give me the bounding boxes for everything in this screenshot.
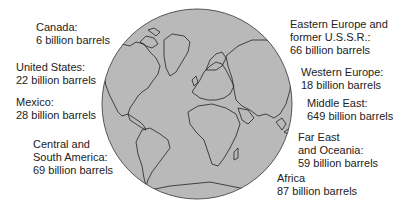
label-mexico: Mexico: 28 billion barrels [16, 96, 96, 122]
region-value: 18 billion barrels [301, 79, 383, 92]
region-value: 66 billion barrels [290, 44, 388, 57]
label-africa: Africa 87 billion barrels [277, 172, 357, 198]
label-western-europe: Western Europe: 18 billion barrels [301, 66, 383, 92]
region-value: 69 billion barrels [33, 164, 113, 177]
region-value: 59 billion barrels [298, 157, 378, 170]
region-name-cont: South America: [33, 151, 113, 164]
label-central-south-america: Central and South America: 69 billion ba… [33, 138, 113, 177]
label-canada: Canada: 6 billion barrels [36, 21, 110, 47]
label-united-states: United States: 22 billion barrels [16, 61, 96, 87]
region-value: 22 billion barrels [16, 74, 96, 87]
region-value: 87 billion barrels [277, 185, 357, 198]
region-name-cont: and Oceania: [298, 144, 378, 157]
region-name: Middle East: [307, 97, 393, 110]
label-middle-east: Middle East: 649 billion barrels [307, 97, 393, 123]
label-eastern-europe-ussr: Eastern Europe and former U.S.S.R.: 66 b… [290, 18, 388, 57]
region-value: 649 billion barrels [307, 110, 393, 123]
region-name: Mexico: [16, 96, 96, 109]
label-far-east-oceania: Far East and Oceania: 59 billion barrels [298, 131, 378, 170]
region-name-cont: former U.S.S.R.: [290, 31, 388, 44]
globe-disc [102, 9, 292, 199]
region-value: 6 billion barrels [36, 34, 110, 47]
region-name: United States: [16, 61, 96, 74]
region-name: Africa [277, 172, 357, 185]
region-name: Far East [298, 131, 378, 144]
region-name: Western Europe: [301, 66, 383, 79]
region-name: Central and [33, 138, 113, 151]
region-name: Canada: [36, 21, 110, 34]
region-value: 28 billion barrels [16, 109, 96, 122]
region-name: Eastern Europe and [290, 18, 388, 31]
